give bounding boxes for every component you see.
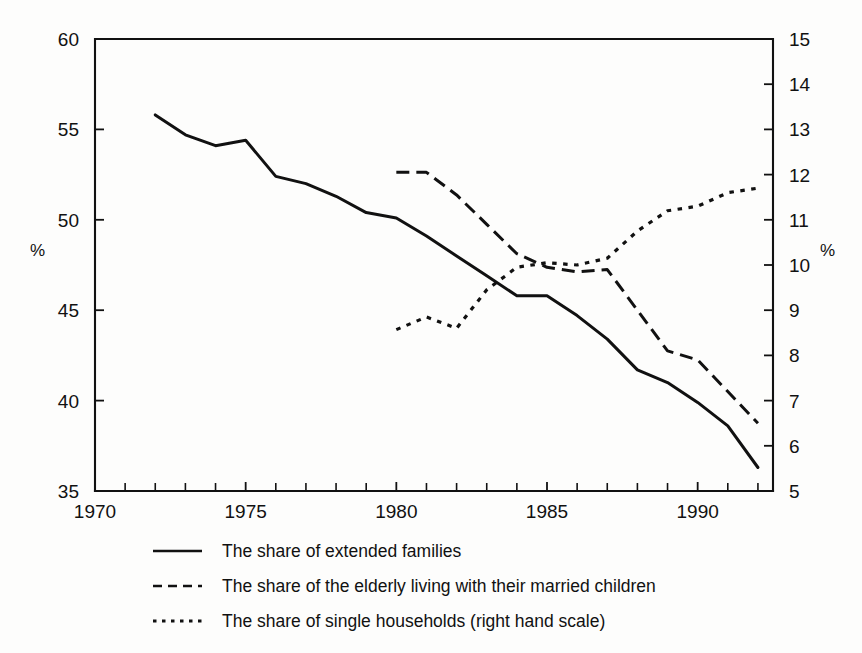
right-tick-label: 15 (789, 29, 810, 50)
right-tick-label: 6 (789, 436, 800, 457)
right-tick-label: 14 (789, 74, 811, 95)
left-axis-ticks (95, 129, 104, 400)
right-tick-label: 11 (789, 210, 809, 231)
x-axis-tick-labels: 19701975198019851990 (74, 501, 719, 522)
x-tick-label: 1975 (225, 501, 267, 522)
left-tick-label: 40 (58, 391, 79, 412)
line-chart: 354045505560 56789101112131415 197019751… (0, 0, 862, 653)
x-axis-ticks (125, 482, 758, 491)
legend-label-single-households: The share of single households (right ha… (222, 611, 605, 631)
right-tick-label: 10 (789, 255, 810, 276)
x-tick-label: 1990 (677, 501, 719, 522)
plot-frame (95, 39, 773, 491)
legend-label-elderly-with-married-children: The share of the elderly living with the… (222, 576, 656, 596)
left-tick-label: 55 (58, 119, 79, 140)
right-tick-label: 9 (789, 300, 800, 321)
left-tick-label: 50 (58, 210, 79, 231)
right-tick-label: 12 (789, 165, 810, 186)
chart-legend: The share of extended families The share… (153, 541, 656, 631)
series-line-single-households (396, 188, 758, 329)
right-tick-label: 8 (789, 345, 800, 366)
axis-spines (95, 39, 773, 491)
series-line-elderly-with-married-children (396, 172, 758, 423)
left-tick-label: 45 (58, 300, 79, 321)
right-axis-tick-labels: 56789101112131415 (789, 29, 811, 502)
x-tick-label: 1970 (74, 501, 116, 522)
chart-figure: 354045505560 56789101112131415 197019751… (0, 0, 862, 653)
right-tick-label: 5 (789, 481, 800, 502)
left-axis-tick-labels: 354045505560 (58, 29, 79, 502)
left-tick-label: 35 (58, 481, 79, 502)
x-tick-label: 1985 (526, 501, 568, 522)
legend-label-extended-families: The share of extended families (222, 541, 462, 561)
series-line-extended-families (155, 115, 758, 468)
right-tick-label: 13 (789, 119, 810, 140)
right-axis-ticks (764, 84, 773, 446)
right-tick-label: 7 (789, 391, 800, 412)
left-tick-label: 60 (58, 29, 79, 50)
left-axis-unit-label: % (30, 241, 45, 260)
series-lines (155, 115, 758, 468)
x-tick-label: 1980 (375, 501, 417, 522)
right-axis-unit-label: % (820, 241, 835, 260)
